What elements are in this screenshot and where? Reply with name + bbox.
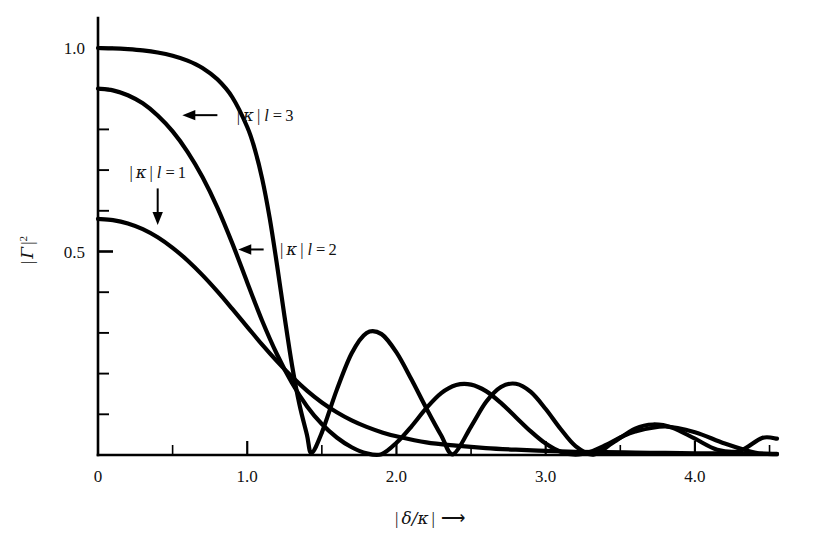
x-title-bar-open: |	[395, 509, 398, 528]
label-part-0: |	[237, 106, 240, 125]
x-title-bar-close: |	[432, 509, 435, 528]
data-curves	[98, 48, 777, 455]
x-tick-label-0: 0	[94, 467, 103, 486]
y-tick-label-1.0: 1.0	[64, 39, 85, 58]
annotation-arrow-head	[152, 212, 162, 225]
label-part-0: |	[280, 240, 283, 259]
axis-spines	[98, 18, 777, 455]
x-axis-tick-labels: 01.02.03.04.0	[94, 467, 706, 486]
label-part-2: |	[150, 163, 153, 182]
label-part-3: l	[308, 240, 313, 259]
label-part-2: |	[257, 106, 260, 125]
svg-text:|Γ|2: |Γ|2	[17, 236, 37, 264]
annotation-label-kappa-l-3: |κ|l=3	[237, 106, 294, 125]
curve-annotations: |κ|l=3|κ|l=2|κ|l=1	[129, 106, 336, 259]
y-axis-ticks	[98, 48, 113, 414]
label-part-4: =	[316, 240, 325, 259]
x-tick-label-4.0: 4.0	[684, 467, 705, 486]
y-tick-label-0.5: 0.5	[64, 243, 85, 262]
label-part-4: =	[165, 163, 174, 182]
y-title-bar-open: |	[18, 261, 37, 264]
y-title-exponent: 2	[17, 236, 29, 242]
annotation-kappa-l-2: |κ|l=2	[238, 240, 336, 259]
annotation-arrow-head	[182, 110, 195, 120]
x-tick-label-2.0: 2.0	[386, 467, 407, 486]
label-part-0: |	[129, 163, 132, 182]
y-title-symbol: Γ	[17, 246, 37, 260]
x-title-symbol: δ/κ	[401, 508, 428, 528]
x-tick-label-1.0: 1.0	[237, 467, 258, 486]
label-part-3: l	[264, 106, 269, 125]
label-part-3: l	[157, 163, 162, 182]
svg-text:|δ/κ|⟶: |δ/κ|⟶	[395, 508, 465, 528]
label-part-1: κ	[135, 163, 147, 182]
annotation-label-kappa-l-2: |κ|l=2	[280, 240, 337, 259]
curve-kl-1	[98, 219, 777, 454]
label-part-5: 3	[285, 106, 293, 125]
annotation-kappa-l-3: |κ|l=3	[182, 106, 293, 125]
figure-container: 0.51.0 01.02.03.04.0 |Γ|2 --> |δ/κ|⟶ |κ|…	[0, 0, 813, 553]
y-axis-tick-labels: 0.51.0	[64, 39, 85, 262]
label-part-1: κ	[285, 240, 297, 259]
annotation-kappa-l-1: |κ|l=1	[129, 163, 186, 225]
label-part-5: 1	[178, 163, 186, 182]
label-part-1: κ	[242, 106, 254, 125]
x-title-arrow: ⟶	[441, 509, 465, 528]
reflectance-plot: 0.51.0 01.02.03.04.0 |Γ|2 --> |δ/κ|⟶ |κ|…	[0, 0, 813, 553]
x-tick-label-3.0: 3.0	[535, 467, 556, 486]
label-part-2: |	[300, 240, 303, 259]
annotation-label-kappa-l-1: |κ|l=1	[129, 163, 186, 182]
annotation-arrow-head	[238, 244, 251, 254]
x-axis-title: |δ/κ|⟶	[395, 508, 465, 528]
label-part-5: 2	[328, 240, 336, 259]
y-axis-title: |Γ|2	[17, 236, 37, 264]
label-part-4: =	[273, 106, 282, 125]
